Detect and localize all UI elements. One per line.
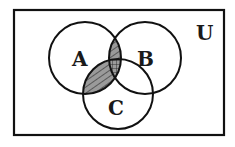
set-b-label: B (137, 47, 154, 71)
set-c-label: C (108, 96, 124, 120)
venn-diagram: A B C U (0, 0, 235, 147)
universe-label: U (196, 21, 213, 45)
set-a-label: A (71, 47, 88, 71)
